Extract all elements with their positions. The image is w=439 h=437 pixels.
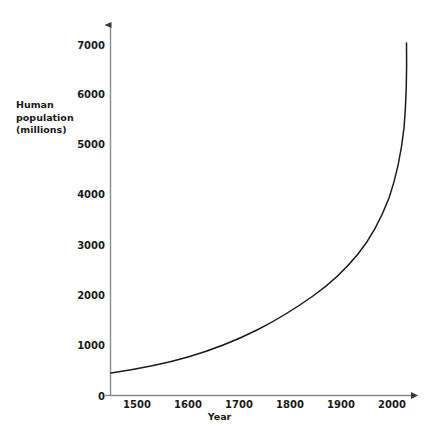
x-tick-label-1500: 1500 [123,399,151,410]
x-tick-label-1900: 1900 [327,399,355,410]
y-tick-label-1000: 1000 [60,340,105,351]
y-tick-label-3000: 3000 [60,240,105,251]
y-axis-title-line-2: population [16,112,74,125]
x-axis-title: Year [0,411,439,424]
x-tick-label-1600: 1600 [174,399,202,410]
population-curve [111,43,407,373]
y-tick-label-7000: 7000 [60,40,105,51]
y-axis-title-line-1: Human [16,99,74,112]
y-axis-title-line-3: (millions) [16,124,74,137]
y-tick-label-0: 0 [60,391,105,402]
y-tick-label-6000: 6000 [60,89,105,100]
x-tick-label-2000: 2000 [378,399,406,410]
x-tick-label-1800: 1800 [276,399,304,410]
y-tick-label-4000: 4000 [60,189,105,200]
population-growth-chart: Human population (millions) Year 0 1000 … [0,0,439,437]
x-tick-label-1700: 1700 [225,399,253,410]
y-axis-title: Human population (millions) [16,99,74,137]
y-tick-label-5000: 5000 [60,139,105,150]
chart-canvas [0,0,439,437]
y-tick-label-2000: 2000 [60,290,105,301]
